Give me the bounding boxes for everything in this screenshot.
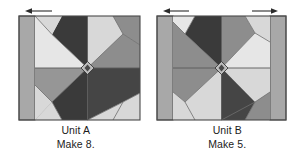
quadrant-bottom-right-b — [221, 68, 270, 120]
unit-a-make-label: Make 8. — [0, 138, 152, 152]
quadrant-bottom-left-b — [173, 68, 222, 120]
unit-b-name-label: Unit B — [152, 124, 304, 138]
block-diagram-b — [152, 0, 304, 122]
left-strip-a — [19, 16, 35, 120]
seam-direction-arrow-left — [25, 8, 52, 14]
quadrant-bottom-right-a — [88, 68, 141, 120]
unit-b-svg — [152, 0, 304, 122]
unit-b-make-label: Make 5. — [152, 138, 304, 152]
block-diagram-a — [0, 0, 152, 122]
seam-direction-arrow-right — [252, 8, 278, 14]
unit-a-block — [19, 16, 140, 120]
quadrant-top-left-a — [35, 16, 88, 68]
right-strip-b — [270, 16, 286, 120]
unit-b-block — [157, 16, 286, 120]
quadrant-bottom-left-a — [35, 68, 88, 120]
unit-panel-a: Unit A Make 8. — [0, 0, 152, 162]
unit-a-svg — [0, 0, 152, 122]
quadrant-top-right-a — [88, 16, 141, 68]
unit-panel-b: Unit B Make 5. — [152, 0, 304, 162]
unit-a-name-label: Unit A — [0, 124, 152, 138]
quadrant-top-right-b — [221, 16, 270, 68]
seam-direction-arrow-left — [163, 8, 189, 14]
left-strip-b — [157, 16, 173, 120]
quilt-unit-figure: Unit A Make 8. — [0, 0, 303, 162]
quadrant-top-left-b — [173, 16, 222, 68]
